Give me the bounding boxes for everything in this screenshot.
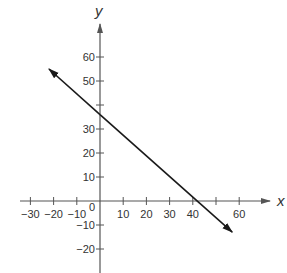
x-tick-label: 10	[117, 208, 129, 220]
y-tick-label: 10	[83, 171, 95, 183]
y-tick-label: 30	[83, 123, 95, 135]
x-tick-label: 30	[163, 208, 175, 220]
y-tick-label: −10	[76, 219, 95, 231]
x-tick-label: 60	[233, 208, 245, 220]
x-tick-label: −20	[44, 208, 63, 220]
y-axis-label: y	[94, 2, 104, 19]
y-tick-label: −20	[76, 243, 95, 255]
x-tick-label: 0	[89, 201, 95, 213]
x-tick-label: −30	[21, 208, 40, 220]
x-tick-label: 40	[187, 208, 199, 220]
ticks: −30−20−1001020304060−20−101020305060	[21, 51, 245, 255]
y-tick-label: 20	[83, 147, 95, 159]
axis-labels: x y	[94, 2, 285, 209]
axes	[20, 24, 270, 273]
y-tick-label: 60	[83, 51, 95, 63]
line-chart: −30−20−1001020304060−20−101020305060 x y	[0, 0, 287, 273]
y-tick-label: 50	[83, 75, 95, 87]
x-axis-label: x	[276, 192, 285, 209]
x-tick-label: 20	[140, 208, 152, 220]
